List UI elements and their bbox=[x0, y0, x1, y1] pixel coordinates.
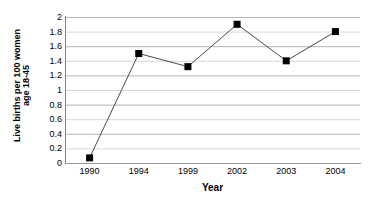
y-axis-tick-label: 1.8 bbox=[49, 27, 62, 36]
data-point-marker bbox=[135, 50, 142, 57]
y-axis-tick-label: 1.6 bbox=[49, 42, 62, 51]
y-axis-tick-label: 1.2 bbox=[49, 71, 62, 80]
x-axis-tick-label: 2002 bbox=[227, 167, 247, 176]
x-axis-tick-label: 2003 bbox=[276, 167, 296, 176]
plot-svg bbox=[65, 17, 360, 163]
y-axis-line bbox=[65, 16, 66, 164]
x-axis-tick-label: 1999 bbox=[178, 167, 198, 176]
y-axis-tick-label: 1.4 bbox=[49, 56, 62, 65]
x-axis-tick-label: 1990 bbox=[80, 167, 100, 176]
data-line bbox=[90, 24, 336, 158]
data-point-marker bbox=[86, 154, 93, 161]
gridlines bbox=[65, 18, 360, 149]
data-point-marker bbox=[283, 57, 290, 64]
data-point-marker bbox=[234, 21, 241, 28]
y-axis-tick-label: 0.4 bbox=[49, 129, 62, 138]
x-axis-title: Year bbox=[65, 183, 360, 193]
x-axis-tick-label: 2004 bbox=[325, 167, 345, 176]
x-axis-line bbox=[65, 163, 361, 164]
plot-area bbox=[65, 17, 360, 163]
line-chart: Live births per 100 women age 18-45 00.2… bbox=[0, 0, 378, 203]
y-axis-tick-label: 0.6 bbox=[49, 115, 62, 124]
y-axis-tick-label: 0.8 bbox=[49, 100, 62, 109]
y-axis-title-line-2: age 18-45 bbox=[22, 65, 31, 106]
x-axis-tick-label: 1994 bbox=[129, 167, 149, 176]
data-point-marker bbox=[184, 63, 191, 70]
y-axis-tick-label: 2 bbox=[57, 13, 62, 22]
y-axis-tick-labels: 00.20.40.60.811.21.41.61.82 bbox=[36, 11, 62, 163]
y-axis-tick-label: 0 bbox=[57, 159, 62, 168]
y-axis-tick-label: 1 bbox=[57, 86, 62, 95]
x-axis-tick-labels: 199019941999200220032004 bbox=[65, 167, 360, 181]
data-point-marker bbox=[332, 28, 339, 35]
data-markers bbox=[86, 21, 339, 162]
y-axis-tick-label: 0.2 bbox=[49, 144, 62, 153]
